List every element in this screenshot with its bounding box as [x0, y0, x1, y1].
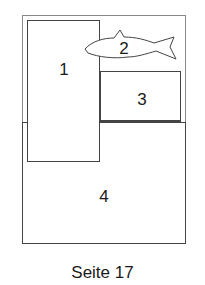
region-3: 3 [100, 71, 181, 122]
region-2-label: 2 [119, 40, 128, 57]
region-3-label: 3 [137, 91, 146, 108]
page-caption: Seite 17 [0, 263, 205, 283]
region-1-label: 1 [59, 61, 68, 78]
region-4-label: 4 [99, 188, 108, 205]
fish-icon [84, 27, 180, 63]
